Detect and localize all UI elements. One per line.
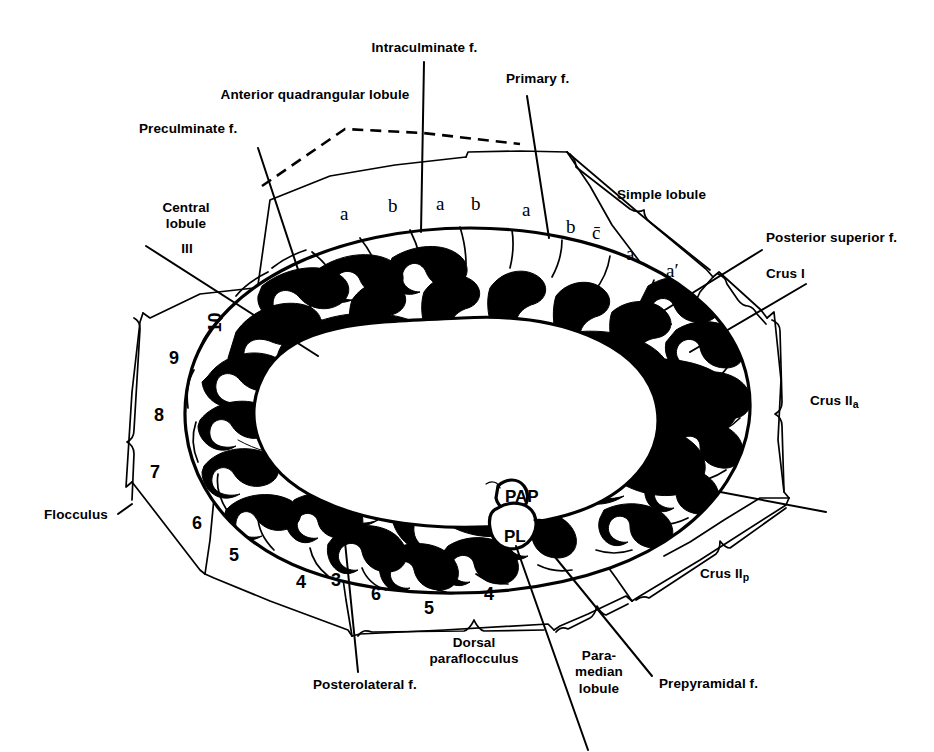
vermis-number-8: 6 (371, 584, 381, 605)
vermis-number-6: 4 (296, 572, 306, 593)
crus-iip-subscript: p (743, 571, 750, 583)
folia-letter-4: a (522, 199, 530, 221)
label-posterior-superior-f: Posterior superior f. (766, 230, 897, 246)
bracket-paramedian (556, 604, 628, 632)
anterior-quadrangular-dashed-bracket (262, 129, 520, 186)
folia-letter-7: a (626, 243, 634, 265)
label-primary-f: Primary f. (506, 71, 569, 87)
vermis-number-3: 7 (150, 462, 160, 483)
crus-iip-main: Crus II (700, 566, 743, 581)
vermis-number-10: 4 (484, 584, 494, 605)
label-central-lobule-roman: III (170, 241, 204, 257)
label-central-lobule: Central lobule (143, 200, 229, 233)
figure-canvas: .outl { fill:none; stroke:#000; stroke-w… (0, 0, 934, 752)
vermis-number-9: 5 (424, 598, 434, 619)
bracket-crus-i (718, 274, 766, 324)
label-dorsal-paraflocculus: Dorsal paraflocculus (404, 635, 544, 668)
crus-iia-subscript: a (853, 398, 859, 410)
vermis-number-1: 9 (169, 348, 179, 369)
leader-intraculminate (421, 62, 424, 232)
crus-iia-main: Crus II (810, 393, 853, 408)
folia-letter-5: b (566, 216, 576, 238)
label-posterolateral-f: Posterolateral f. (313, 677, 417, 693)
vermis-number-4: 6 (192, 513, 202, 534)
label-flocculus: Flocculus (44, 507, 108, 523)
label-crus-iip: Crus IIp (700, 566, 749, 584)
folia-letter-8: a′ (666, 260, 679, 282)
folia-letter-6: c̄ (592, 222, 600, 244)
label-pl: PL (504, 527, 526, 547)
label-anterior-quadrangular-lobule: Anterior quadrangular lobule (210, 87, 420, 103)
label-paramedian-lobule: Para- median lobule (556, 648, 642, 697)
vermis-number-0: 10 (205, 312, 226, 332)
label-intraculminate-f: Intraculminate f. (347, 40, 502, 56)
folia-letter-1: b (388, 195, 398, 217)
vermis-number-5: 5 (229, 545, 239, 566)
folia-letter-3: b (471, 193, 481, 215)
leader-flocculus (118, 504, 132, 514)
label-pap: PAP (505, 487, 539, 507)
folia-letter-2: a (436, 193, 444, 215)
label-preculminate-f: Preculminate f. (139, 121, 237, 137)
label-crus-iia: Crus IIa (810, 393, 859, 411)
folia-letter-0: a (340, 203, 348, 225)
label-crus-i: Crus I (766, 266, 805, 282)
vermis-number-7: 3 (331, 570, 341, 591)
label-prepyramidal-f: Prepyramidal f. (659, 676, 758, 692)
label-simple-lobule: Simple lobule (617, 187, 706, 203)
vermis-number-2: 8 (154, 405, 164, 426)
